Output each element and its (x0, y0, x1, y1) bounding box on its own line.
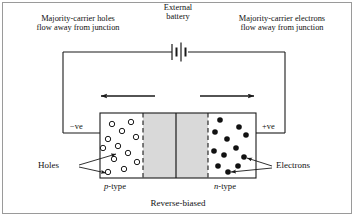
positive-terminal-text: +ve (262, 122, 275, 131)
negative-terminal-label: −ve (70, 122, 83, 131)
hole-symbol (105, 136, 110, 141)
hole-symbol (119, 128, 124, 133)
holes-callout-label: Holes (38, 160, 59, 170)
electron-symbol (241, 154, 247, 160)
external-battery-symbol (172, 43, 186, 62)
majority-holes-line2: flow away from junction (14, 23, 142, 32)
hole-symbol (111, 156, 116, 161)
hole-symbol (128, 119, 133, 124)
hole-symbol (100, 145, 105, 150)
electrons-callout-label: Electrons (276, 160, 310, 170)
electron-symbol (236, 124, 242, 130)
holes-leader-upper (79, 154, 116, 165)
electron-symbol (224, 136, 230, 142)
electrons-leader-upper (247, 158, 272, 166)
electron-symbol (215, 163, 221, 169)
hole-symbol (133, 134, 138, 139)
n-type-region-label: n-type (214, 182, 236, 192)
hole-symbol (105, 169, 110, 174)
electron-symbol (217, 117, 223, 123)
majority-electrons-line1: Majority-carrier electrons (214, 14, 350, 23)
external-battery-caption: External battery (140, 3, 216, 22)
hole-symbol (109, 121, 114, 126)
reverse-biased-pn-junction-figure: Majority-carrier holes flow away from ju… (0, 0, 356, 218)
electron-symbol (211, 148, 217, 154)
majority-electrons-line2: flow away from junction (214, 23, 350, 32)
figure-caption: Reverse-biased (0, 198, 356, 208)
n-type-suffix: -type (218, 181, 236, 191)
electron-symbol (235, 163, 241, 169)
hole-symbol (121, 166, 126, 171)
p-type-suffix: -type (108, 181, 126, 191)
p-type-region-label: p-type (104, 182, 126, 192)
electron-symbol (243, 132, 249, 138)
hole-symbol (115, 143, 120, 148)
majority-holes-line1: Majority-carrier holes (14, 14, 142, 23)
hole-carriers (100, 119, 139, 174)
hole-symbol (125, 150, 130, 155)
electron-symbol (225, 169, 231, 175)
electron-symbol (212, 129, 218, 135)
holes-leader-lower (79, 167, 106, 173)
hole-symbol (134, 159, 139, 164)
majority-holes-caption: Majority-carrier holes flow away from ju… (14, 14, 142, 33)
external-battery-line2: battery (140, 12, 216, 21)
majority-electrons-caption: Majority-carrier electrons flow away fro… (214, 14, 350, 33)
electron-symbol (221, 152, 227, 158)
external-battery-line1: External (140, 3, 216, 12)
electron-symbol (233, 145, 239, 151)
negative-terminal-text: −ve (70, 122, 83, 131)
positive-terminal-label: +ve (262, 122, 275, 131)
electron-carriers (211, 117, 249, 175)
